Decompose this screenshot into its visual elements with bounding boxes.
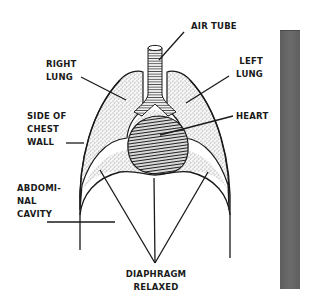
diaphragm-leader-center: [154, 178, 155, 263]
label-diaphragm-relaxed: DIAPHRAGM RELAXED: [117, 268, 195, 294]
label-chest-wall-line1: SIDE OF: [27, 110, 67, 123]
label-left-lung-line1: LEFT: [230, 55, 263, 68]
label-air-tube-text: AIR TUBE: [191, 20, 237, 33]
diaphragm-leader-left: [100, 170, 155, 263]
label-left-lung-line2: LUNG: [230, 68, 263, 81]
diaphragm-leader-right: [155, 172, 208, 263]
lung-diagram: AIR TUBE RIGHT LUNG LEFT LUNG HEART SIDE…: [0, 0, 310, 304]
label-chest-wall-line2: CHEST: [27, 123, 67, 136]
air-tube-leader: [159, 32, 184, 60]
label-abdominal-line1: ABDOMI-: [17, 182, 61, 195]
label-abdominal-line2: NAL: [17, 195, 61, 208]
label-abdominal-cavity: ABDOMI- NAL CAVITY: [17, 182, 61, 221]
heart-shape: [128, 116, 188, 174]
label-heart-text: HEART: [236, 110, 268, 123]
label-heart: HEART: [236, 110, 268, 123]
label-chest-wall-line3: WALL: [27, 136, 67, 149]
label-right-lung-line2: LUNG: [46, 71, 77, 84]
label-diaphragm-line1: DIAPHRAGM: [117, 268, 195, 281]
label-left-lung: LEFT LUNG: [230, 55, 263, 81]
label-side-of-chest-wall: SIDE OF CHEST WALL: [27, 110, 67, 149]
label-abdominal-line3: CAVITY: [17, 208, 61, 221]
label-diaphragm-line2: RELAXED: [117, 281, 195, 294]
label-right-lung: RIGHT LUNG: [46, 58, 77, 84]
label-air-tube: AIR TUBE: [191, 20, 237, 33]
chest-illustration: [0, 0, 310, 304]
label-right-lung-line1: RIGHT: [46, 58, 77, 71]
side-bar: [280, 30, 300, 289]
